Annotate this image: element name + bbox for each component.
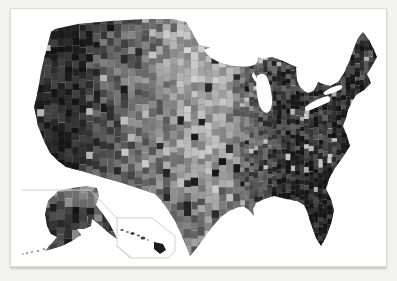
us-county-choropleth-map bbox=[0, 0, 397, 281]
hawaii-island bbox=[131, 232, 135, 235]
hawaii-island bbox=[137, 235, 140, 237]
hawaii-inset-border bbox=[117, 218, 175, 258]
hawaii-island bbox=[120, 229, 123, 231]
alaska-inset bbox=[22, 183, 126, 261]
hawaii-island bbox=[141, 237, 146, 240]
hawaii-island bbox=[126, 231, 129, 233]
hawaii-island bbox=[147, 239, 149, 241]
page-background: { "window": { "width": 397, "height": 28… bbox=[0, 0, 397, 281]
hawaii-big-island bbox=[154, 242, 166, 254]
hawaii-inset bbox=[120, 229, 166, 254]
